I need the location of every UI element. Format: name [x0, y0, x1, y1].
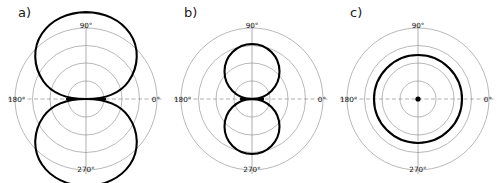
polar-plot-b-svg: 90° 270° 180° 0°: [166, 0, 333, 183]
angle-label-0-a: 0°: [152, 95, 160, 104]
angle-label-180-c: 180°: [340, 95, 357, 104]
angle-label-90-b: 90°: [246, 21, 259, 30]
polar-plot-panel-b: b) 90° 270° 180° 0°: [166, 0, 333, 183]
angle-label-270-b: 270°: [243, 165, 260, 174]
polar-pattern-figure: a) 90° 270° 180° 0° b): [0, 0, 500, 183]
angle-label-270-c: 270°: [409, 165, 426, 174]
angle-label-180-a: 180°: [8, 95, 25, 104]
angle-label-0-c: 0°: [484, 95, 492, 104]
angle-label-0-b: 0°: [318, 95, 326, 104]
angle-label-180-b: 180°: [174, 95, 191, 104]
center-dot-icon: [415, 96, 420, 101]
polar-plot-panel-c: c) 90° 270° 180° 0°: [332, 0, 499, 183]
angle-label-270-a: 270°: [77, 165, 94, 174]
angle-label-90-a: 90°: [80, 21, 93, 30]
polar-plot-c-svg: 90° 270° 180° 0°: [332, 0, 499, 183]
angle-label-90-c: 90°: [412, 21, 425, 30]
polar-plot-a-svg: 90° 270° 180° 0°: [0, 0, 167, 183]
polar-plot-panel-a: a) 90° 270° 180° 0°: [0, 0, 167, 183]
